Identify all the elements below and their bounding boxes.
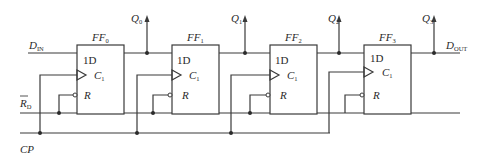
junction-dot (243, 51, 247, 55)
q2-label: Q2 (328, 12, 339, 25)
shift-register-diagram: DIN RD CP DOUT FF0 FF1 FF2 FF3 Q0 Q1 Q2 … (0, 0, 479, 161)
svg-text:RD: RD (19, 97, 32, 110)
q3-label: Q3 (422, 12, 433, 25)
ff2-d-pin-label: 1D (275, 54, 289, 66)
junction-dot (337, 51, 341, 55)
junction-dot (432, 51, 436, 55)
ff1-d-pin-label: 1D (177, 54, 191, 66)
data-in-label: DIN (28, 39, 44, 52)
arrow-up-icon (243, 15, 248, 22)
ff2-title: FF2 (284, 31, 302, 44)
ff2-r-pin-label: R (279, 89, 287, 101)
ff3-d-pin-label: 1D (370, 52, 384, 64)
ff3-title: FF3 (378, 31, 396, 44)
ff1-title: FF1 (186, 31, 204, 44)
q0-label: Q0 (131, 12, 142, 25)
data-out-label: DOUT (445, 39, 467, 52)
ff1-r-pin-label: R (181, 89, 189, 101)
clock-label: CP (20, 143, 34, 155)
reset-label: RD (19, 96, 32, 110)
ff3-r-pin-label: R (372, 89, 380, 101)
ff0-d-pin-label: 1D (83, 54, 97, 66)
ff0-r-pin-label: R (83, 89, 91, 101)
q1-label: Q1 (231, 12, 242, 25)
junction-dot (145, 51, 149, 55)
ff0-title: FF0 (91, 31, 109, 44)
flip-flop-3 (360, 45, 411, 114)
arrow-up-icon (145, 15, 150, 22)
